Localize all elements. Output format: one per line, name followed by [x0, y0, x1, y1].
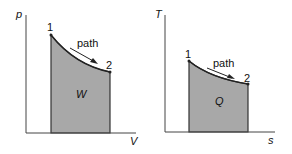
pv-diagram [26, 15, 136, 133]
pv-point-2-label: 2 [106, 60, 112, 71]
ts-y-axis-label: T [155, 9, 162, 20]
pv-path-label: path [77, 38, 98, 49]
ts-point-2-label: 2 [244, 73, 250, 84]
pv-y-axis-label: p [16, 9, 22, 20]
pv-arrowhead-icon [90, 58, 98, 64]
pv-point-1-label: 1 [47, 22, 53, 33]
ts-point-1-label: 1 [185, 49, 191, 60]
ts-arrowhead-icon [227, 74, 235, 79]
ts-path-label: path [213, 58, 234, 69]
pv-point-1-marker [50, 34, 53, 37]
pv-area-label: W [76, 89, 86, 100]
pv-work-area [51, 35, 110, 133]
pv-x-axis-label: V [130, 136, 137, 147]
ts-x-axis-label: s [268, 135, 274, 146]
ts-diagram [165, 15, 275, 132]
ts-area-label: Q [215, 96, 224, 107]
